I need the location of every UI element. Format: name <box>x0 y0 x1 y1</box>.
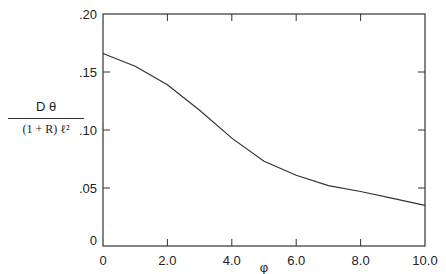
y-label-numerator: D θ <box>8 99 84 119</box>
y-tick-label: .20 <box>79 7 97 22</box>
data-line <box>103 53 425 205</box>
x-tick-label: 8.0 <box>352 253 370 268</box>
x-tick-label: 4.0 <box>223 253 241 268</box>
y-tick-label: .05 <box>79 181 97 196</box>
chart: 02.04.06.08.010.00.05.10.15.20φ <box>0 0 446 274</box>
x-axis-label: φ <box>260 260 268 274</box>
x-tick-label: 10.0 <box>412 253 437 268</box>
x-tick-label: 0 <box>99 253 106 268</box>
plot-frame <box>103 14 425 246</box>
y-label-denominator: (1 + R) ℓ² <box>8 119 84 137</box>
y-tick-label: 0 <box>90 233 97 248</box>
y-axis-label: D θ (1 + R) ℓ² <box>8 99 84 137</box>
y-tick-label: .15 <box>79 65 97 80</box>
x-tick-label: 2.0 <box>158 253 176 268</box>
x-tick-label: 6.0 <box>287 253 305 268</box>
